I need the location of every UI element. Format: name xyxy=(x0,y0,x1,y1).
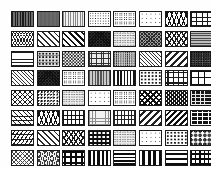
swatch-speckled-texture[interactable] xyxy=(37,90,60,106)
swatch-horizontal-lines-thin[interactable] xyxy=(11,51,34,67)
swatch-grid-light[interactable] xyxy=(88,110,111,126)
swatch-dots-light[interactable] xyxy=(139,130,162,146)
swatch-fine-grid[interactable] xyxy=(88,51,111,67)
swatch-texture-light[interactable] xyxy=(113,130,136,146)
swatch-sparse-dots[interactable] xyxy=(139,11,162,27)
swatch-grid-with-bars[interactable] xyxy=(190,150,211,166)
swatch-noise-very-light[interactable] xyxy=(62,90,85,106)
swatch-diagonal-stripes-light[interactable] xyxy=(37,31,60,47)
swatch-chevron-open[interactable] xyxy=(165,31,188,47)
swatch-wavy-crosshatch[interactable] xyxy=(11,31,34,47)
swatch-circle-grid[interactable] xyxy=(113,90,136,106)
swatch-diamond-lattice[interactable] xyxy=(139,90,162,106)
swatch-diagonal-stripes-bold[interactable] xyxy=(62,31,85,47)
swatch-dot-pattern-rows[interactable] xyxy=(139,70,162,86)
swatch-lattice-dense[interactable] xyxy=(165,90,188,106)
swatch-crosshatch-light[interactable] xyxy=(11,150,34,166)
swatch-chain-zigzag-bands[interactable] xyxy=(62,130,85,146)
pattern-swatch-sheet xyxy=(0,0,211,169)
swatch-solid-gray-fill[interactable] xyxy=(37,11,60,27)
swatch-vertical-stripes-dark[interactable] xyxy=(11,11,34,27)
swatch-rectangle-grid[interactable] xyxy=(113,110,136,126)
swatch-horizontal-bars-thick[interactable] xyxy=(165,150,188,166)
swatch-vertical-stripes-bold[interactable] xyxy=(113,70,136,86)
swatch-zigzag-wave[interactable] xyxy=(37,110,60,126)
swatch-grid xyxy=(11,11,211,166)
swatch-lattice-diagonal[interactable] xyxy=(11,90,34,106)
swatch-large-grid[interactable] xyxy=(190,70,211,86)
swatch-basket-weave[interactable] xyxy=(11,110,34,126)
swatch-noise-light[interactable] xyxy=(113,31,136,47)
swatch-vertical-bars-wide[interactable] xyxy=(139,150,162,166)
swatch-brick-block[interactable] xyxy=(62,110,85,126)
swatch-noise-dark[interactable] xyxy=(190,51,211,67)
swatch-vertical-stripes-light[interactable] xyxy=(62,11,85,27)
swatch-brick-light[interactable] xyxy=(190,11,211,27)
swatch-diagonal-bands[interactable] xyxy=(139,110,162,126)
swatch-vertical-bars-bold[interactable] xyxy=(88,150,111,166)
swatch-plus-cross-dark[interactable] xyxy=(62,150,85,166)
swatch-horizontal-lines-gray[interactable] xyxy=(190,31,211,47)
swatch-dots-medium[interactable] xyxy=(165,130,188,146)
swatch-weave-texture[interactable] xyxy=(11,130,34,146)
swatch-crosshatch-dense-dark[interactable] xyxy=(88,31,111,47)
swatch-zigzag-chevron[interactable] xyxy=(165,11,188,27)
swatch-plus-cross-grid[interactable] xyxy=(165,70,188,86)
swatch-circles-on-dark[interactable] xyxy=(88,130,111,146)
swatch-dots-sparse-open[interactable] xyxy=(88,90,111,106)
swatch-diagonal-hatch-fine[interactable] xyxy=(11,70,34,86)
swatch-diamond-grid-dark[interactable] xyxy=(190,130,211,146)
swatch-wavy-texture[interactable] xyxy=(37,150,60,166)
swatch-horizontal-bars-bold[interactable] xyxy=(113,150,136,166)
swatch-circles-open-sparse[interactable] xyxy=(62,70,85,86)
swatch-dotted-grid[interactable] xyxy=(37,51,60,67)
swatch-vertical-stripes-gray[interactable] xyxy=(88,70,111,86)
swatch-diagonal-hatch-open[interactable] xyxy=(165,110,188,126)
swatch-crosshatch-medium[interactable] xyxy=(139,31,162,47)
swatch-noise-medium[interactable] xyxy=(113,51,136,67)
swatch-diagonal-stripes-thin[interactable] xyxy=(139,51,162,67)
swatch-open-circles[interactable] xyxy=(113,11,136,27)
swatch-diagonal-stripes-band[interactable] xyxy=(165,51,188,67)
swatch-checkerboard[interactable] xyxy=(62,51,85,67)
swatch-fine-dot-grid[interactable] xyxy=(88,11,111,27)
swatch-brick-dark[interactable] xyxy=(190,110,211,126)
swatch-crosshatch-dark[interactable] xyxy=(37,70,60,86)
swatch-block-dark[interactable] xyxy=(190,90,211,106)
swatch-diagonal-hatch-wide[interactable] xyxy=(37,130,60,146)
